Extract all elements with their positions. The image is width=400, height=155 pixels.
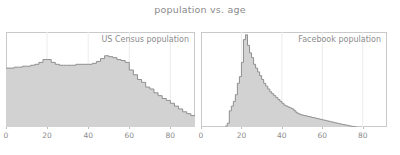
panel-us-census: US Census population: [6, 32, 195, 127]
x-tick-mark: [170, 127, 171, 129]
x-axis-us-census: 020406080: [6, 127, 195, 145]
x-tick-mark: [241, 127, 242, 129]
x-tick-label: 40: [83, 131, 93, 140]
x-tick-mark: [47, 127, 48, 129]
panel-label-facebook: Facebook population: [298, 35, 381, 44]
x-tick-label: 60: [318, 131, 328, 140]
x-tick-label: 0: [4, 131, 9, 140]
x-tick-mark: [322, 127, 323, 129]
x-tick-label: 80: [166, 131, 176, 140]
figure: population vs. age US Census population …: [0, 0, 400, 155]
x-tick-mark: [129, 127, 130, 129]
x-tick-mark: [6, 127, 7, 129]
x-tick-label: 0: [199, 131, 204, 140]
panel-label-us-census: US Census population: [101, 35, 189, 44]
x-tick-label: 60: [124, 131, 134, 140]
x-tick-label: 40: [277, 131, 287, 140]
chart-title: population vs. age: [0, 4, 400, 15]
histogram-area: [6, 56, 195, 127]
x-tick-mark: [363, 127, 364, 129]
x-tick-mark: [88, 127, 89, 129]
x-tick-mark: [201, 127, 202, 129]
x-tick-label: 20: [42, 131, 52, 140]
x-tick-label: 80: [358, 131, 368, 140]
x-tick-mark: [282, 127, 283, 129]
x-tick-label: 20: [237, 131, 247, 140]
histogram-us-census: [6, 32, 195, 127]
panel-facebook: Facebook population: [201, 32, 387, 127]
histogram-facebook: [201, 32, 387, 127]
histogram-area: [225, 35, 356, 127]
x-axis-facebook: 020406080: [201, 127, 387, 145]
